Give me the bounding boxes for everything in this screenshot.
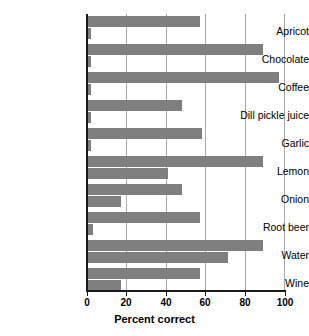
tick-60 [205,291,206,296]
category-label-onion: Onion [225,193,309,205]
x-axis-line [86,290,286,292]
bar-lemon-lower [87,168,168,179]
bar-root-beer-upper [87,212,200,223]
bar-wine-upper [87,268,200,279]
bar-water-lower [87,252,228,263]
bar-apricot-upper [87,16,200,27]
category-label-dill-pickle-juice: Dill pickle juice [225,109,309,121]
tick-20 [126,291,127,296]
tick-label-40: 40 [160,297,171,309]
tick-0 [87,291,88,296]
bar-onion-upper [87,184,182,195]
category-label-garlic: Garlic [225,137,309,149]
category-label-root-beer: Root beer [225,221,309,233]
category-label-apricot: Apricot [225,25,309,37]
category-label-water: Water [225,249,309,261]
tick-40 [166,291,167,296]
tick-label-100: 100 [277,297,294,309]
bar-onion-lower [87,196,121,207]
tick-label-60: 60 [199,297,210,309]
tick-label-20: 20 [120,297,131,309]
y-axis-line [86,14,88,292]
tick-label-0: 0 [84,297,90,309]
category-label-coffee: Coffee [225,81,309,93]
tick-label-80: 80 [239,297,250,309]
bar-dill-pickle-juice-upper [87,100,182,111]
category-label-chocolate: Chocolate [225,53,309,65]
tick-80 [245,291,246,296]
bar-chart: 0 20 40 60 80 100 Apricot Chocolate Coff… [0,0,309,336]
category-label-lemon: Lemon [225,165,309,177]
tick-100 [285,291,286,296]
category-label-wine: Wine [225,277,309,289]
bar-garlic-upper [87,128,202,139]
x-axis-title: Percent correct [0,313,309,325]
